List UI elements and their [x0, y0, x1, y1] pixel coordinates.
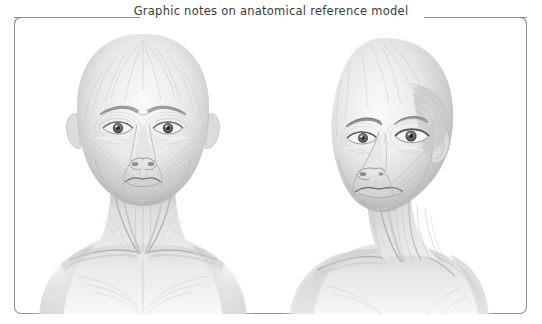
- artwork-canvas: [15, 18, 526, 314]
- anatomical-figure-front-view: [33, 28, 253, 314]
- front-head: [66, 34, 219, 212]
- notes-sheet: Graphic notes on anatomical reference mo…: [0, 0, 542, 324]
- page-title: Graphic notes on anatomical reference mo…: [0, 4, 542, 18]
- quarter-head: [331, 38, 453, 218]
- anatomical-figure-three-quarter-view: [283, 32, 493, 314]
